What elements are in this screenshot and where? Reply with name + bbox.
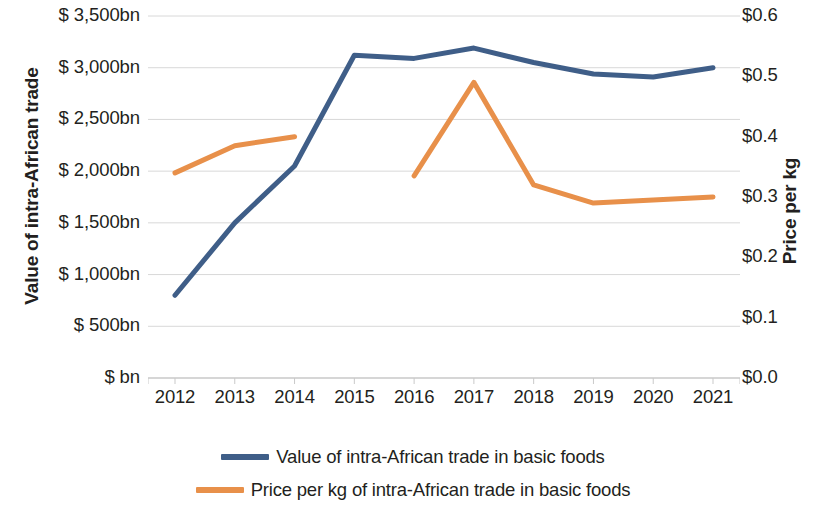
y-axis-left-ticks: $ bn$ 500bn$ 1,000bn$ 1,500bn$ 2,000bn$ …	[18, 0, 140, 400]
y-axis-right-tick-label: $0.3	[742, 185, 778, 207]
x-axis-tick-label: 2015	[334, 386, 374, 408]
chart-container: Value of intra-African trade Price per k…	[0, 0, 826, 505]
legend-label: Price per kg of intra-African trade in b…	[251, 479, 631, 501]
x-axis-tick-label: 2021	[693, 386, 733, 408]
x-axis-ticks: 2012201320142015201620172018201920202021	[148, 386, 740, 414]
y-axis-right-tick-label: $0.2	[742, 245, 778, 267]
legend-item[interactable]: Value of intra-African trade in basic fo…	[0, 440, 826, 473]
chart-legend: Value of intra-African trade in basic fo…	[0, 440, 826, 505]
y-axis-right-tick-label: $0.6	[742, 4, 778, 26]
x-axis-tick-label: 2013	[215, 386, 255, 408]
x-axis-tick-marks	[148, 378, 740, 384]
y-axis-left-tick-label: $ 3,500bn	[59, 4, 140, 26]
series-lines	[175, 48, 713, 295]
x-axis-tick-label: 2014	[274, 386, 314, 408]
x-axis-tick-label: 2019	[573, 386, 613, 408]
x-axis-tick-label: 2020	[633, 386, 673, 408]
gridlines	[148, 16, 740, 378]
y-axis-left-tick-label: $ 500bn	[74, 314, 140, 336]
y-axis-left-tick-label: $ 2,500bn	[59, 107, 140, 129]
x-axis-tick-label: 2016	[394, 386, 434, 408]
y-axis-right-tick-label: $0.1	[742, 306, 778, 328]
series-line-0	[175, 48, 713, 295]
legend-swatch-icon	[196, 487, 244, 493]
plot-svg	[148, 10, 740, 385]
x-axis-tick-label: 2017	[454, 386, 494, 408]
legend-swatch-icon	[221, 454, 269, 460]
series-line-1	[414, 82, 713, 203]
y-axis-left-tick-label: $ 1,000bn	[59, 263, 140, 285]
y-axis-left-tick-label: $ 3,000bn	[59, 56, 140, 78]
y-axis-left-tick-label: $ 2,000bn	[59, 159, 140, 181]
y-axis-right-tick-label: $0.4	[742, 125, 778, 147]
y-axis-left-tick-label: $ 1,500bn	[59, 211, 140, 233]
legend-item[interactable]: Price per kg of intra-African trade in b…	[0, 473, 826, 505]
x-axis-tick-label: 2018	[513, 386, 553, 408]
y-axis-right-ticks: $0.0$0.1$0.2$0.3$0.4$0.5$0.6	[742, 0, 816, 400]
y-axis-left-tick-label: $ bn	[104, 366, 140, 388]
legend-label: Value of intra-African trade in basic fo…	[276, 446, 604, 468]
x-axis-tick-label: 2012	[155, 386, 195, 408]
y-axis-right-tick-label: $0.0	[742, 366, 778, 388]
plot-area	[148, 10, 740, 385]
series-line-1	[175, 137, 295, 173]
y-axis-right-tick-label: $0.5	[742, 64, 778, 86]
